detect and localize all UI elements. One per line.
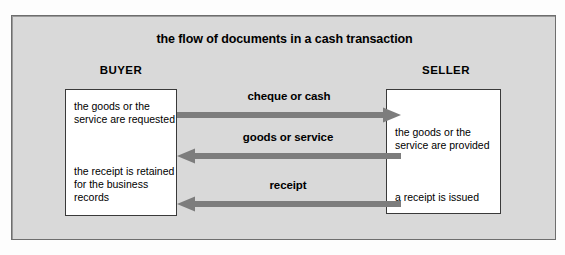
diagram-canvas: the flow of documents in a cash transact…	[0, 0, 565, 255]
flow-arrow-left-goods-or-service	[175, 148, 401, 164]
seller-text-receipt-issued: a receipt is issued	[395, 191, 501, 204]
buyer-heading: BUYER	[61, 64, 181, 76]
arrow-left-icon	[175, 148, 401, 164]
diagram-title: the flow of documents in a cash transact…	[12, 32, 557, 46]
arrow-left-icon	[175, 196, 401, 212]
diagram-panel: the flow of documents in a cash transact…	[11, 15, 556, 240]
buyer-box: the goods or the service are requested t…	[65, 89, 177, 216]
seller-box: the goods or the service are provided a …	[386, 89, 501, 214]
flow-label-cheque-or-cash: cheque or cash	[177, 90, 401, 102]
flow-label-receipt: receipt	[175, 179, 401, 191]
seller-text-goods-provided: the goods or the service are provided	[395, 126, 501, 152]
flow-arrow-left-receipt	[175, 196, 401, 212]
buyer-text-receipt-retained: the receipt is retained for the business…	[74, 165, 178, 205]
seller-heading: SELLER	[386, 64, 506, 76]
buyer-text-goods-requested: the goods or the service are requested	[74, 100, 178, 126]
flow-arrow-right-cheque-or-cash	[177, 107, 401, 123]
flow-label-goods-or-service: goods or service	[175, 131, 401, 143]
arrow-right-icon	[177, 107, 401, 123]
